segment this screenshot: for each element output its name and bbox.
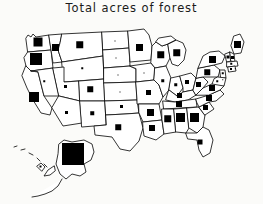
marker-hawaii (40, 166, 42, 168)
us-map (0, 16, 263, 204)
marker-vermont (227, 56, 230, 59)
marker-new-mexico (90, 111, 94, 115)
marker-montana (76, 41, 83, 48)
marker-wisconsin (157, 51, 164, 58)
marker-south-carolina (203, 105, 208, 110)
marker-north-dakota (115, 41, 116, 42)
marker-utah (64, 85, 67, 88)
marker-wyoming (81, 67, 83, 69)
marker-tennessee (176, 101, 182, 107)
marker-pennsylvania (204, 69, 210, 75)
marker-kentucky (177, 93, 182, 98)
marker-new-jersey (222, 72, 224, 74)
marker-ohio (185, 80, 189, 84)
forest-acreage-cartogram-figure: Total acres of forest (0, 0, 263, 204)
marker-washington (34, 38, 43, 47)
marker-maine (234, 41, 241, 48)
marker-iowa (144, 73, 145, 74)
marker-south-dakota (116, 58, 117, 59)
marker-michigan (173, 49, 180, 56)
marker-rhode-island (235, 68, 236, 69)
marker-nebraska (118, 75, 119, 76)
marker-indiana (174, 83, 177, 86)
marker-delaware (222, 79, 223, 80)
marker-georgia (190, 113, 199, 122)
marker-new-york (209, 56, 216, 63)
marker-alabama (176, 113, 185, 122)
marker-arizona (65, 111, 68, 114)
marker-missouri (146, 90, 151, 95)
figure-title: Total acres of forest (0, 1, 263, 15)
marker-alaska (62, 143, 84, 165)
marker-west-virginia (196, 82, 201, 87)
state-outlines (14, 29, 244, 197)
marker-california (29, 92, 39, 102)
marker-arkansas (147, 109, 154, 116)
marker-texas (115, 124, 121, 130)
marker-nevada (43, 80, 45, 82)
marker-colorado (87, 86, 93, 92)
marker-illinois (161, 79, 164, 82)
marker-massachusetts (230, 63, 232, 65)
us-map-svg (0, 16, 263, 204)
marker-kansas (120, 92, 121, 93)
marker-mississippi (164, 115, 171, 122)
marker-new-hampshire (231, 56, 234, 59)
marker-oklahoma (120, 105, 123, 108)
marker-minnesota (136, 44, 143, 51)
marker-idaho (52, 44, 59, 51)
marker-connecticut (230, 68, 232, 70)
marker-louisiana (149, 125, 155, 131)
marker-florida (198, 140, 203, 145)
marker-oregon (30, 53, 42, 65)
marker-maryland (216, 80, 218, 82)
marker-virginia (209, 85, 215, 91)
marker-north-carolina (206, 95, 212, 101)
